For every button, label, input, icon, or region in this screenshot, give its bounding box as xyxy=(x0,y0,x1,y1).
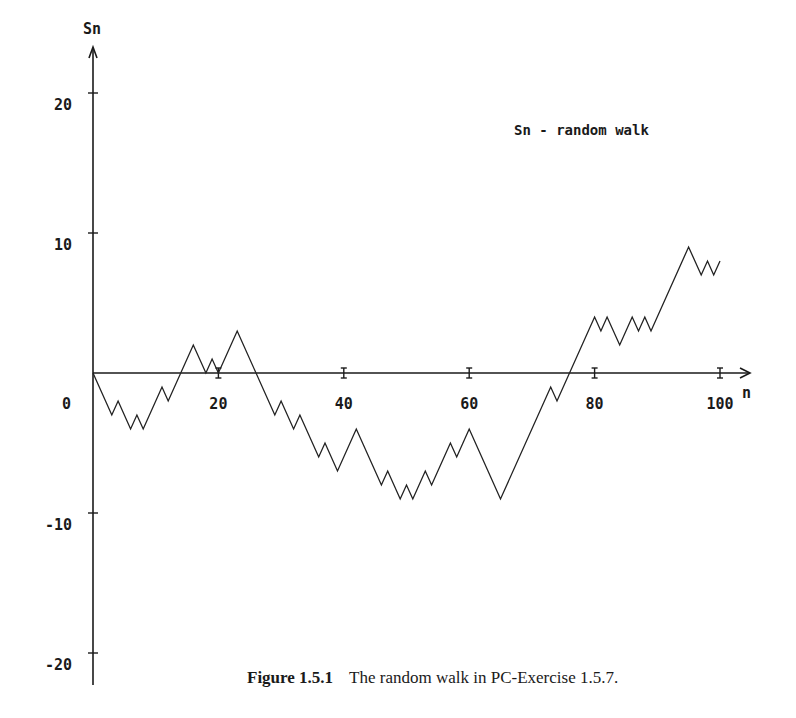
axes xyxy=(89,47,750,685)
figure-label: Figure 1.5.1 xyxy=(247,668,333,687)
y-tick-label: -10 xyxy=(45,516,72,534)
caption-text: The random walk in PC-Exercise 1.5.7. xyxy=(349,668,618,687)
y-axis-label: Sn xyxy=(83,20,101,38)
y-tick-label: 10 xyxy=(54,236,72,254)
x-tick-label: 40 xyxy=(335,395,353,413)
legend-label: Sn - random walk xyxy=(514,122,649,138)
y-tick-label: -20 xyxy=(45,656,72,674)
x-tick-label: 20 xyxy=(209,395,227,413)
x-tick-labels: 20406080100 xyxy=(209,395,733,413)
x-axis-label: n xyxy=(742,384,751,402)
x-tick-label: 80 xyxy=(586,395,604,413)
figure-caption: Figure 1.5.1The random walk in PC-Exerci… xyxy=(247,668,618,688)
x-tick-label: 100 xyxy=(706,395,733,413)
origin-label: 0 xyxy=(62,395,71,413)
x-tick-label: 60 xyxy=(460,395,478,413)
y-tick-labels: 2010-10-20 xyxy=(45,96,72,674)
y-tick-label: 20 xyxy=(54,96,72,114)
random-walk-chart: 2010-10-20 20406080100 0 Sn n Sn - rando… xyxy=(0,0,796,718)
